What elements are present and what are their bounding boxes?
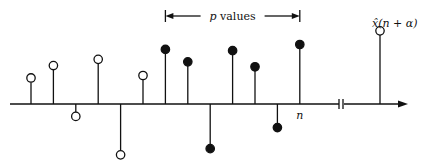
sample-stem [94,55,102,104]
time-axis [10,99,408,109]
filled-sample-marker [161,45,169,53]
span-label: p values [210,10,256,23]
filled-sample-marker [228,46,236,54]
stem-diagram: p values n x̂(n + α) [0,0,432,160]
open-sample-marker [27,74,35,82]
open-sample-marker [49,61,57,69]
sample-stem [116,104,124,159]
sample-stem [139,71,147,104]
span-left-arrow-head [165,13,173,19]
sample-stem [49,61,57,104]
sample-stem [228,46,236,104]
open-sample-marker [139,71,147,79]
filled-sample-marker [251,63,259,71]
sample-stem [251,63,259,104]
sample-stem [296,40,304,104]
predicted-sample-stem [376,27,384,104]
sample-stem [27,74,35,104]
open-sample-marker [72,112,80,120]
open-sample-marker [94,55,102,63]
filled-sample-marker [184,58,192,66]
sample-stem [273,104,281,132]
open-sample-marker [116,151,124,159]
sample-stem [184,58,192,104]
filled-sample-marker [273,123,281,131]
span-label-p: p [210,10,217,23]
axis-arrow-head [398,101,408,108]
sample-stem [72,104,80,121]
span-label-rest: values [217,10,256,23]
filled-sample-marker [296,40,304,48]
sample-stems [27,27,384,159]
span-right-arrow-head [292,13,300,19]
current-index-label: n [296,109,303,122]
sample-stem [206,104,214,153]
predicted-sample-label: x̂(n + α) [372,17,418,30]
sample-stem [161,45,169,104]
filled-sample-marker [206,144,214,152]
span-bracket: p values [165,10,299,23]
